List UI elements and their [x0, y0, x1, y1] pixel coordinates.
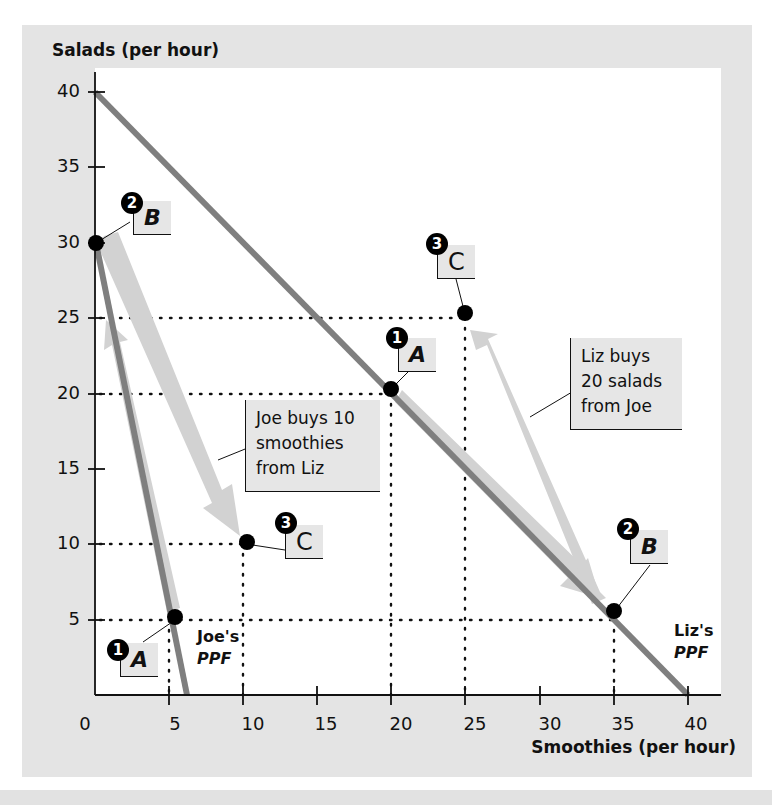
x-tick-label: 30 — [530, 713, 570, 734]
step-badge-1: 1 — [107, 639, 129, 661]
y-tick-label: 25 — [40, 306, 80, 327]
y-tick-label: 20 — [40, 382, 80, 403]
callout-joe-trade: Joe buys 10 smoothies from Liz — [245, 400, 380, 492]
callout-liz-trade: Liz buys 20 salads from Joe — [570, 338, 682, 430]
callout-line: Liz buys — [581, 344, 672, 369]
y-axis-title: Salads (per hour) — [52, 40, 219, 60]
joe-ppf-label: Joe's PPF — [197, 626, 239, 670]
step-badge-2: 2 — [121, 192, 143, 214]
liz-ppf-label: Liz's PPF — [674, 620, 713, 664]
callout-line: Joe buys 10 — [256, 406, 370, 431]
y-tick-label: 5 — [40, 608, 80, 629]
x-tick-label: 35 — [603, 713, 643, 734]
ppf-abbr: PPF — [197, 648, 239, 670]
step-badge-1: 1 — [386, 327, 408, 349]
x-tick-label: 10 — [233, 713, 273, 734]
y-tick-label: 40 — [40, 80, 80, 101]
callout-line: from Joe — [581, 394, 672, 419]
arrow-joe-trade — [98, 232, 240, 536]
x-tick-label: 40 — [676, 713, 716, 734]
ppf-owner: Joe's — [197, 627, 239, 646]
liz-point-a — [383, 381, 399, 397]
y-tick-label: 35 — [40, 155, 80, 176]
x-tick-label: 0 — [65, 713, 105, 734]
joe-point-a — [167, 609, 183, 625]
x-tick-label: 15 — [306, 713, 346, 734]
liz-point-c — [457, 305, 473, 321]
y-tick-label: 15 — [40, 457, 80, 478]
callout-line: from Liz — [256, 456, 370, 481]
ppf-abbr: PPF — [674, 642, 713, 664]
joe-point-c — [239, 534, 255, 550]
joe-point-b — [88, 235, 104, 251]
step-badge-3: 3 — [426, 233, 448, 255]
ppf-owner: Liz's — [674, 621, 713, 640]
x-tick-label: 5 — [155, 713, 195, 734]
x-tick-label: 20 — [381, 713, 421, 734]
callout-line: smoothies — [256, 431, 370, 456]
y-tick-label: 30 — [40, 231, 80, 252]
step-badge-2: 2 — [617, 518, 639, 540]
callout-line: 20 salads — [581, 369, 672, 394]
x-axis-title: Smoothies (per hour) — [531, 737, 736, 757]
step-badge-3: 3 — [275, 512, 297, 534]
x-tick-label: 25 — [455, 713, 495, 734]
liz-point-b — [606, 603, 622, 619]
y-tick-label: 10 — [40, 532, 80, 553]
